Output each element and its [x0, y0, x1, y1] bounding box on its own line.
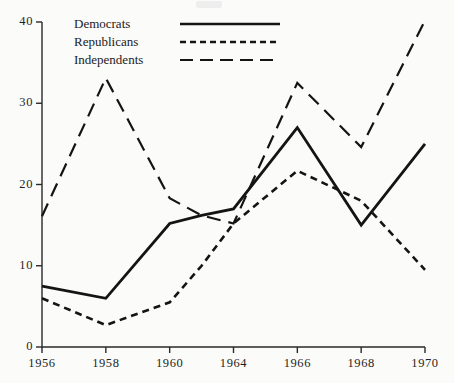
y-tick-label: 10	[0, 258, 33, 273]
legend-swatch-republicans	[178, 36, 282, 48]
y-tick-label: 20	[0, 177, 33, 192]
line-chart: Democrats Republicans Independents 01020…	[0, 0, 454, 383]
legend-item-republicans: Republicans	[74, 33, 282, 51]
legend-label-republicans: Republicans	[74, 34, 178, 50]
x-tick-label: 1958	[79, 356, 133, 371]
legend-label-democrats: Democrats	[74, 16, 178, 32]
x-tick-label: 1970	[398, 356, 452, 371]
x-tick-label: 1960	[143, 356, 197, 371]
legend-swatch-democrats	[178, 18, 282, 30]
legend-item-democrats: Democrats	[74, 15, 282, 33]
chart-legend: Democrats Republicans Independents	[74, 15, 282, 69]
y-tick-label: 30	[0, 95, 33, 110]
legend-label-independents: Independents	[74, 52, 178, 68]
series-line-democrats	[42, 128, 425, 299]
x-tick-label: 1956	[15, 356, 69, 371]
x-tick-label: 1964	[207, 356, 261, 371]
legend-item-independents: Independents	[74, 51, 282, 69]
y-tick-label: 0	[0, 339, 33, 354]
y-tick-label: 40	[0, 14, 33, 29]
x-tick-label: 1966	[270, 356, 324, 371]
series-line-republicans	[42, 171, 425, 325]
legend-swatch-independents	[178, 54, 282, 66]
x-tick-label: 1968	[334, 356, 388, 371]
